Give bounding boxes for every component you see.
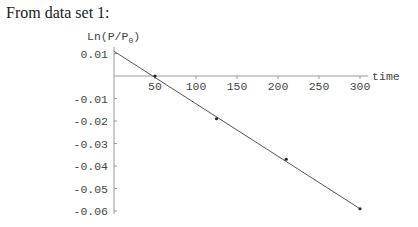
data-point bbox=[153, 74, 156, 77]
y-tick-label: -0.05 bbox=[73, 183, 108, 196]
y-tick-label: -0.04 bbox=[73, 160, 108, 173]
x-tick-label: 300 bbox=[350, 80, 371, 93]
x-tick-label: 200 bbox=[268, 80, 289, 93]
data-point bbox=[285, 158, 288, 161]
y-tick-label: -0.01 bbox=[73, 93, 108, 106]
y-tick-label: -0.03 bbox=[73, 138, 108, 151]
y-tick-label: 0.01 bbox=[80, 48, 108, 61]
x-tick-label: 150 bbox=[227, 80, 248, 93]
x-axis-label: time bbox=[372, 70, 400, 83]
x-tick-label: 50 bbox=[148, 80, 162, 93]
y-tick-label: -0.06 bbox=[73, 205, 108, 218]
x-tick-label: 100 bbox=[186, 80, 207, 93]
data-point bbox=[215, 117, 218, 120]
x-tick-label: 250 bbox=[309, 80, 330, 93]
y-axis-label: Ln(P/P0) bbox=[87, 30, 140, 45]
fit-line bbox=[114, 51, 360, 209]
data-point bbox=[358, 207, 361, 210]
y-tick-label: -0.02 bbox=[73, 115, 108, 128]
chart: Ln(P/P0)time501001502002503000.01-0.01-0… bbox=[0, 0, 418, 227]
